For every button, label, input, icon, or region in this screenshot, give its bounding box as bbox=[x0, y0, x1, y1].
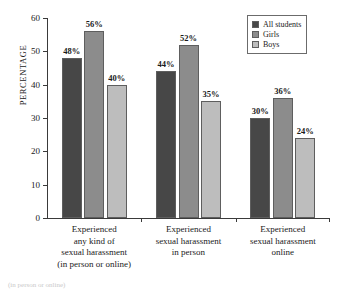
legend-label-all-students: All students bbox=[263, 20, 301, 29]
bar bbox=[295, 138, 315, 218]
y-tick bbox=[43, 151, 47, 152]
cut-off-caption: (in person or online) bbox=[0, 282, 342, 289]
x-tick bbox=[141, 218, 142, 222]
bar bbox=[273, 98, 293, 218]
y-tick bbox=[43, 118, 47, 119]
y-tick-label: 60 bbox=[31, 14, 40, 23]
bar bbox=[84, 31, 104, 218]
legend: All students Girls Boys bbox=[247, 15, 307, 54]
legend-swatch-all-students bbox=[252, 21, 259, 28]
x-tick bbox=[236, 218, 237, 222]
y-tick-label: 10 bbox=[31, 180, 40, 189]
bar bbox=[250, 118, 270, 218]
y-tick-label: 0 bbox=[36, 214, 41, 223]
bar-value-label: 40% bbox=[101, 74, 133, 83]
y-tick bbox=[43, 18, 47, 19]
bar-value-label: 35% bbox=[195, 90, 227, 99]
y-tick-label: 30 bbox=[31, 114, 40, 123]
legend-swatch-boys bbox=[252, 41, 259, 48]
y-axis-line bbox=[47, 18, 48, 218]
bar bbox=[156, 71, 176, 218]
y-tick-label: 20 bbox=[31, 147, 40, 156]
bar-value-label: 56% bbox=[78, 20, 110, 29]
bar bbox=[179, 45, 199, 218]
y-tick-label: 50 bbox=[31, 47, 40, 56]
bar-value-label: 36% bbox=[267, 87, 299, 96]
legend-item-boys: Boys bbox=[252, 40, 301, 49]
legend-item-all-students: All students bbox=[252, 20, 301, 29]
bar bbox=[62, 58, 82, 218]
y-tick bbox=[43, 185, 47, 186]
legend-label-girls: Girls bbox=[263, 30, 279, 39]
x-tick bbox=[329, 218, 330, 222]
y-tick bbox=[43, 51, 47, 52]
category-label: Experienced sexual harassment online bbox=[224, 224, 342, 259]
cut-off-caption-text: (in person or online) bbox=[8, 282, 65, 289]
x-axis-line bbox=[47, 218, 330, 219]
legend-label-boys: Boys bbox=[263, 40, 279, 49]
bar bbox=[107, 85, 127, 218]
y-axis-title: PERCENTAGE bbox=[18, 20, 28, 130]
legend-item-girls: Girls bbox=[252, 30, 301, 39]
bar-chart: PERCENTAGE 0102030405060 48%56%40%44%52%… bbox=[0, 0, 342, 289]
y-tick bbox=[43, 218, 47, 219]
y-tick bbox=[43, 85, 47, 86]
bar-value-label: 48% bbox=[56, 47, 88, 56]
bar-value-label: 30% bbox=[244, 107, 276, 116]
bar bbox=[201, 101, 221, 218]
legend-swatch-girls bbox=[252, 31, 259, 38]
bar-value-label: 24% bbox=[289, 127, 321, 136]
bar-value-label: 52% bbox=[173, 34, 205, 43]
bar-value-label: 44% bbox=[150, 60, 182, 69]
y-tick-label: 40 bbox=[31, 80, 40, 89]
